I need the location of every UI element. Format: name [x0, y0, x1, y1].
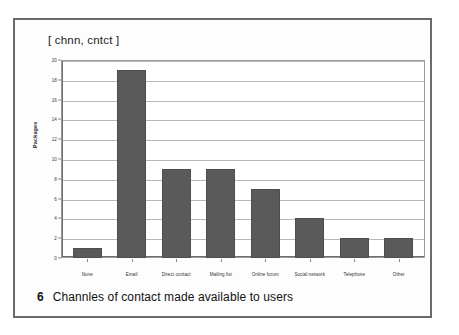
- y-axis-tick-labels: 20181614121086420: [40, 60, 57, 258]
- x-axis-tick-label: Telephone: [343, 272, 365, 277]
- x-axis-tick: Other: [377, 262, 422, 280]
- x-axis-tick: Email: [110, 262, 155, 280]
- bar[interactable]: [73, 248, 102, 258]
- y-axis-tick-label: 14: [40, 117, 57, 122]
- x-axis-tick: Direct contact: [154, 262, 199, 280]
- bar-series: [61, 60, 425, 258]
- y-axis-tick-label: 8: [40, 176, 57, 181]
- bar[interactable]: [251, 189, 280, 258]
- x-axis-tick-mark: [399, 259, 400, 262]
- chart-plot-area: Packages 20181614121086420 NoneEmailDire…: [31, 60, 425, 280]
- bar-slot: [110, 60, 155, 258]
- bar[interactable]: [117, 70, 146, 258]
- figure-caption: 6 Channles of contact made available to …: [37, 290, 293, 304]
- x-axis-tick-label: Email: [126, 272, 138, 277]
- figure-caption-text: Channles of contact made available to us…: [53, 290, 293, 304]
- x-axis-tick-labels: NoneEmailDirect contactMailing listOnlin…: [61, 262, 425, 280]
- bar-slot: [243, 60, 288, 258]
- bar-slot: [65, 60, 110, 258]
- bar-slot: [199, 60, 244, 258]
- y-axis-title: Packages: [32, 78, 38, 148]
- bar[interactable]: [384, 238, 413, 258]
- y-axis-tick-label: 18: [40, 77, 57, 82]
- x-axis-tick-label: Mailing list: [210, 272, 232, 277]
- x-axis-tick-mark: [176, 259, 177, 262]
- x-axis-tick-label: Direct contact: [162, 272, 191, 277]
- chart-title: [ chnn, cntct ]: [48, 34, 119, 46]
- x-axis-tick-mark: [310, 259, 311, 262]
- x-axis-tick-mark: [132, 259, 133, 262]
- x-axis-tick: Social network: [288, 262, 333, 280]
- x-axis-tick: Online forum: [243, 262, 288, 280]
- bar-slot: [288, 60, 333, 258]
- y-axis-tick-label: 10: [40, 157, 57, 162]
- x-axis-tick-label: Online forum: [252, 272, 279, 277]
- bar-slot: [332, 60, 377, 258]
- x-axis-tick-mark: [354, 259, 355, 262]
- x-axis-tick-mark: [221, 259, 222, 262]
- x-axis-tick-label: None: [82, 272, 93, 277]
- x-axis-tick-label: Social network: [294, 272, 325, 277]
- x-axis-tick: None: [65, 262, 110, 280]
- y-axis-tick-label: 4: [40, 216, 57, 221]
- bar[interactable]: [206, 169, 235, 258]
- y-axis-tick-label: 20: [40, 58, 57, 63]
- bar[interactable]: [295, 218, 324, 258]
- x-axis-tick-mark: [265, 259, 266, 262]
- x-axis-tick-label: Other: [393, 272, 405, 277]
- y-axis-tick-label: 6: [40, 196, 57, 201]
- x-axis-tick: Mailing list: [199, 262, 244, 280]
- figure-caption-number: 6: [37, 290, 44, 304]
- x-axis-tick-mark: [87, 259, 88, 262]
- x-axis-tick: Telephone: [332, 262, 377, 280]
- bar-slot: [377, 60, 422, 258]
- bar[interactable]: [340, 238, 369, 258]
- y-axis-tick-label: 0: [40, 256, 57, 261]
- y-axis-tick-label: 12: [40, 137, 57, 142]
- y-axis-tick-label: 16: [40, 97, 57, 102]
- bar-slot: [154, 60, 199, 258]
- figure-frame: [ chnn, cntct ] Packages 201816141210864…: [13, 18, 432, 318]
- y-axis-tick-label: 2: [40, 236, 57, 241]
- bar[interactable]: [162, 169, 191, 258]
